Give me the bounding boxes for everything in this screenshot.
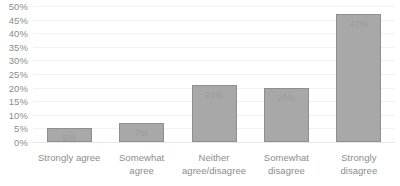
y-axis-tick-label: 30% — [9, 55, 28, 66]
x-axis-category: Somewhatdisagree — [250, 146, 322, 186]
bar-data-label: 5% — [62, 134, 75, 141]
x-axis-category: Strongly agree — [33, 146, 105, 186]
bar[interactable]: 21% — [192, 85, 237, 142]
x-axis-category-label: Strongly agree — [34, 152, 104, 165]
x-axis-category: Neitheragree/disagree — [178, 146, 250, 186]
y-axis: 0%5%10%15%20%25%30%35%40%45%50% — [0, 0, 31, 148]
bar-slot: 21% — [178, 6, 250, 142]
x-axis-category: Strongly disagree — [323, 146, 395, 186]
x-axis-category-line: disagree — [251, 165, 321, 178]
bar-data-label: 20% — [277, 94, 296, 141]
x-axis-line — [33, 142, 395, 143]
bars-layer: 5%7%21%20%47% — [33, 6, 395, 142]
bar-slot: 20% — [250, 6, 322, 142]
bar-slot: 47% — [323, 6, 395, 142]
y-axis-tick-label: 10% — [9, 109, 28, 120]
bar[interactable]: 20% — [264, 88, 309, 142]
x-axis-category-line: agree/disagree — [179, 165, 249, 178]
y-axis-tick-label: 0% — [14, 137, 28, 148]
y-axis-tick-label: 45% — [9, 14, 28, 25]
x-axis-category-label: Neitheragree/disagree — [179, 152, 249, 177]
bar[interactable]: 47% — [336, 14, 381, 142]
x-axis: Strongly agreeSomewhat agreeNeitheragree… — [33, 146, 395, 186]
bar-data-label: 21% — [205, 91, 224, 141]
bar[interactable]: 5% — [47, 128, 92, 142]
y-axis-tick-label: 50% — [9, 1, 28, 12]
x-axis-category: Somewhat agree — [105, 146, 177, 186]
y-axis-tick-label: 5% — [14, 123, 28, 134]
x-axis-category-line: Somewhat agree — [119, 152, 164, 176]
bar-chart: 0%5%10%15%20%25%30%35%40%45%50% 5%7%21%2… — [0, 0, 400, 186]
y-axis-tick-label: 25% — [9, 69, 28, 80]
y-axis-tick-label: 40% — [9, 28, 28, 39]
x-axis-category-line: Strongly disagree — [340, 152, 377, 176]
bar-slot: 7% — [105, 6, 177, 142]
x-axis-category-label: Somewhat agree — [106, 152, 176, 177]
x-axis-category-line: Neither — [199, 152, 230, 163]
x-axis-category-label: Somewhatdisagree — [251, 152, 321, 177]
x-axis-category-line: Somewhat — [264, 152, 309, 163]
x-axis-category-line: Strongly agree — [38, 152, 101, 163]
bar-slot: 5% — [33, 6, 105, 142]
y-axis-tick-label: 20% — [9, 82, 28, 93]
bar-data-label: 7% — [135, 129, 148, 141]
y-axis-tick-label: 15% — [9, 96, 28, 107]
bar[interactable]: 7% — [119, 123, 164, 142]
bar-data-label: 47% — [350, 20, 369, 141]
x-axis-category-label: Strongly disagree — [324, 152, 394, 177]
y-axis-tick-label: 35% — [9, 41, 28, 52]
